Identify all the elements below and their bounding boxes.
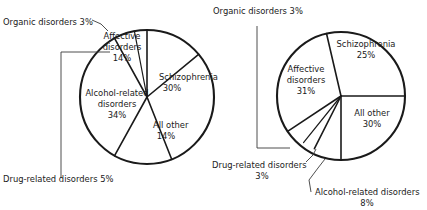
right-label-affective-line1: Affective xyxy=(288,64,325,74)
left-callout-organic-leader xyxy=(92,20,108,31)
left-label-alcohol-line2: disorders xyxy=(98,99,137,109)
left-label-affective-line1: Affective xyxy=(104,31,141,41)
left-label-affective-value: 14% xyxy=(113,53,132,63)
left-label-affective-line2: disorders xyxy=(103,42,142,52)
right-pie-chart: Organic disorders 3% Schizophrenia 25% A… xyxy=(212,6,420,208)
charts-svg: Organic disorders 3% Affective disorders… xyxy=(0,0,427,210)
right-label-affective-value: 31% xyxy=(297,86,316,96)
left-label-allother-value: 14% xyxy=(157,131,176,141)
left-pie-chart: Organic disorders 3% Affective disorders… xyxy=(3,17,218,184)
left-label-organic: Organic disorders 3% xyxy=(3,17,93,27)
right-label-alcohol-line1: Alcohol-related disorders xyxy=(315,187,420,197)
right-label-organic: Organic disorders 3% xyxy=(213,6,303,16)
left-label-alcohol-line1: Alcohol-related xyxy=(85,88,148,98)
right-label-alcohol-value: 8% xyxy=(360,198,373,208)
left-label-schizophrenia-value: 30% xyxy=(163,83,182,93)
right-label-drug-line1: Drug-related disorders xyxy=(212,160,307,170)
left-label-drug: Drug-related disorders 5% xyxy=(3,174,114,184)
right-label-drug-value: 3% xyxy=(255,171,268,181)
left-label-allother-line1: All other xyxy=(153,120,189,130)
right-label-schizophrenia-value: 25% xyxy=(357,50,376,60)
right-label-schizophrenia-line1: Schizophrenia xyxy=(337,39,396,49)
right-label-allother-value: 30% xyxy=(363,119,382,129)
right-label-affective-line2: disorders xyxy=(287,75,326,85)
left-label-schizophrenia-line1: Schizophrenia xyxy=(159,72,218,82)
right-label-allother-line1: All other xyxy=(354,108,390,118)
pie-chart-figure: Organic disorders 3% Affective disorders… xyxy=(0,0,427,210)
left-label-alcohol-value: 34% xyxy=(108,110,127,120)
